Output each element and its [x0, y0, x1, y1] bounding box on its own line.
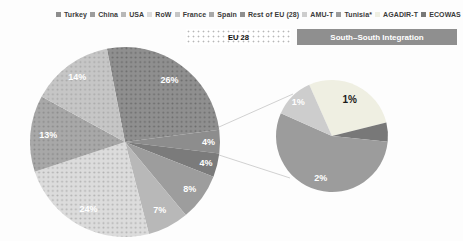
pie-charts-canvas: 26%4%4%8%7%24%13%14%1%2%1%: [0, 0, 463, 241]
pie-data-label: 2%: [314, 173, 327, 183]
pie-data-label: 1%: [342, 94, 357, 105]
pie-data-label: 14%: [68, 72, 86, 82]
pie-data-label: 1%: [292, 97, 305, 107]
trade-shares-figure: TurkeyChinaUSARoWFranceSpainRest of EU (…: [0, 0, 463, 241]
main-trade-shares-pie-slice-26%: [107, 47, 219, 142]
pie-data-label: 13%: [39, 130, 57, 140]
pie-data-label: 4%: [202, 137, 215, 147]
pie-data-label: 24%: [80, 204, 98, 214]
pie-data-label: 7%: [153, 205, 166, 215]
pie-data-label: 26%: [160, 75, 178, 85]
pie-data-label: 8%: [183, 184, 196, 194]
pie-data-label: 4%: [200, 158, 213, 168]
pie-connector-line: [219, 155, 290, 178]
